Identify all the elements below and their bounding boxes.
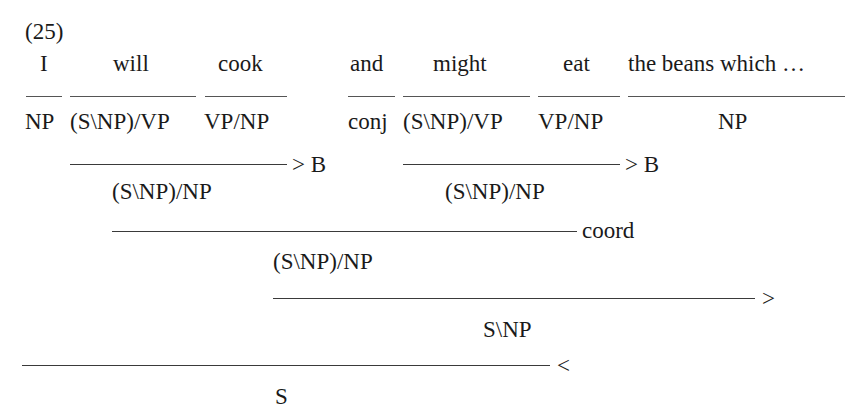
rule-label-compose-left: > B [292, 153, 326, 176]
category-np-subject: NP [25, 110, 54, 133]
derivation-rule-coordination [112, 231, 577, 232]
lexical-rule-will [70, 96, 196, 97]
derivation-rule-compose-left [70, 164, 287, 165]
word-will: will [113, 52, 149, 75]
word-i: I [40, 52, 48, 75]
derivation-rule-compose-right [403, 164, 620, 165]
rule-label-backward-application: < [557, 354, 570, 377]
result-compose-left: (S\NP)/NP [112, 180, 212, 203]
lexical-rule-might [403, 96, 530, 97]
lexical-rule-cook [205, 96, 287, 97]
result-compose-right: (S\NP)/NP [445, 180, 545, 203]
lexical-rule-eat [538, 96, 620, 97]
rule-label-compose-right: > B [625, 153, 659, 176]
result-forward-application: S\NP [483, 318, 532, 341]
category-np-object: NP [718, 110, 747, 133]
word-and: and [350, 52, 383, 75]
word-the-beans-which: the beans which … [628, 52, 805, 75]
category-will: (S\NP)/VP [70, 110, 170, 133]
lexical-rule-and [348, 96, 395, 97]
word-might: might [433, 52, 487, 75]
result-sentence: S [275, 385, 288, 408]
example-number: (25) [25, 20, 63, 43]
category-eat: VP/NP [538, 110, 603, 133]
word-cook: cook [218, 52, 263, 75]
derivation-rule-backward-application [22, 365, 550, 366]
derivation-rule-forward-application [273, 298, 755, 299]
word-eat: eat [563, 52, 590, 75]
category-might: (S\NP)/VP [403, 110, 503, 133]
category-conj: conj [348, 110, 388, 133]
category-cook: VP/NP [204, 110, 269, 133]
rule-label-forward-application: > [762, 287, 775, 310]
lexical-rule-the-beans [628, 96, 845, 97]
rule-label-coordination: coord [582, 219, 634, 242]
lexical-rule-i [26, 96, 62, 97]
result-coordination: (S\NP)/NP [273, 250, 373, 273]
